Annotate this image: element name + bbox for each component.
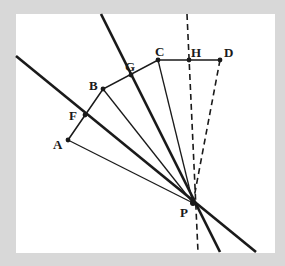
point-B-dot xyxy=(101,87,106,92)
label-P: P xyxy=(180,205,188,220)
label-D: D xyxy=(224,45,233,60)
geometry-diagram: A B C D F G H P xyxy=(0,0,285,266)
label-B: B xyxy=(89,78,98,93)
point-A-dot xyxy=(66,138,71,143)
point-D-dot xyxy=(218,58,223,63)
label-C: C xyxy=(155,44,164,59)
point-P-dot xyxy=(190,200,196,206)
diagram-panel xyxy=(16,14,275,253)
label-G: G xyxy=(125,59,135,74)
label-F: F xyxy=(69,108,77,123)
label-H: H xyxy=(191,45,201,60)
label-A: A xyxy=(53,137,63,152)
point-F-dot xyxy=(83,113,88,118)
